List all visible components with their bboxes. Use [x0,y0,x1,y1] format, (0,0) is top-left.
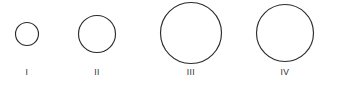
circle-i-label: I [26,67,29,77]
circle-ii-label: II [94,67,100,77]
circle-iii-label: III [187,67,195,77]
circle-iv-label: IV [281,67,290,77]
figure-canvas: I II III IV [0,0,340,87]
circle-series-figure: I II III IV [0,0,340,87]
